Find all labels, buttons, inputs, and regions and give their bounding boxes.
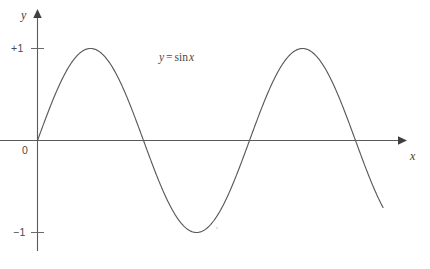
equation-argument: x [189, 51, 194, 63]
equation-operator: = [164, 51, 175, 63]
x-axis-label: x [410, 149, 415, 164]
plot-canvas [0, 0, 430, 269]
origin-label: 0 [22, 144, 28, 156]
image-speck [216, 227, 218, 229]
y-axis [33, 9, 41, 251]
y-tick-label-minus-one: −1 [13, 226, 26, 238]
equation-function-name: sin [175, 51, 188, 63]
y-axis-label: y [21, 8, 26, 23]
y-tick-label-plus-one: +1 [11, 42, 24, 54]
x-axis-arrowhead [398, 136, 407, 145]
x-axis [0, 136, 407, 145]
y-axis-arrowhead [33, 9, 41, 18]
sine-function-figure: y x +1 0 −1 y=sin x [0, 0, 430, 269]
function-equation-label: y=sin x [159, 51, 194, 63]
